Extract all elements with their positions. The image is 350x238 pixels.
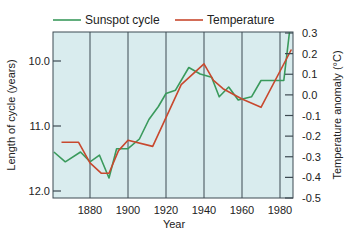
legend: Sunspot cycleTemperature: [53, 13, 275, 27]
x-tick-label: 1960: [230, 204, 254, 216]
left-tick-label: 12.0: [29, 185, 50, 197]
right-axis-title: Temperature anomaly (°C): [331, 50, 343, 179]
right-tick-label: -0.1: [302, 110, 321, 122]
right-tick-label: 0.3: [302, 27, 317, 39]
x-axis: 188019001920194019601980: [78, 204, 292, 216]
left-tick-label: 11.0: [29, 120, 50, 132]
x-axis-title: Year: [163, 218, 186, 230]
right-axis: 0.30.20.10.0-0.1-0.2-0.3-0.4-0.5: [285, 27, 321, 204]
legend-label: Temperature: [207, 13, 275, 27]
right-tick-label: 0.2: [302, 48, 317, 60]
right-tick-label: -0.5: [302, 192, 321, 204]
left-tick-label: 10.0: [29, 55, 50, 67]
x-tick-label: 1980: [268, 204, 292, 216]
legend-label: Sunspot cycle: [85, 13, 160, 27]
left-axis-title: Length of cycle (years): [5, 59, 17, 170]
x-tick-label: 1920: [154, 204, 178, 216]
right-tick-label: -0.3: [302, 151, 321, 163]
x-tick-label: 1880: [78, 204, 102, 216]
right-tick-label: 0.1: [302, 68, 317, 80]
x-tick-label: 1900: [116, 204, 140, 216]
right-tick-label: -0.2: [302, 130, 321, 142]
x-tick-label: 1940: [192, 204, 216, 216]
sunspot-temperature-chart: Sunspot cycleTemperature 10.011.012.0 0.…: [0, 0, 350, 238]
right-tick-label: -0.4: [302, 171, 321, 183]
right-tick-label: 0.0: [302, 89, 317, 101]
plot-area: [53, 32, 293, 198]
